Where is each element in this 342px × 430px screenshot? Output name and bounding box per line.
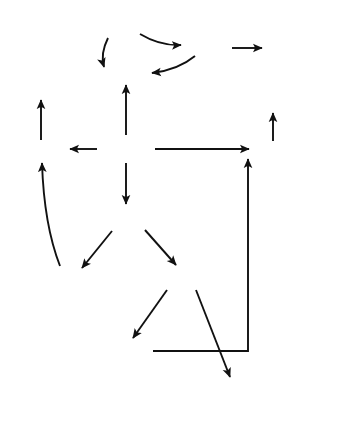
edge-102-hasaspart-101 [152,56,195,73]
edge-top-object-101 [103,38,108,67]
edge-do-agent-100 [42,163,60,266]
diagram-canvas: <*102> --> <*101> --> TABLE --> <*101> -… [0,0,342,430]
edge-change-fromstate-locleft [133,290,167,338]
edge-cause-event-do [82,231,112,268]
semantic-network-diagram: <*102> --> <*101> --> TABLE --> <*101> -… [0,0,342,430]
edge-top-referent-102 [140,34,181,45]
edge-change-tostate-locright [196,290,230,377]
edge-cause-result-change [145,230,176,265]
